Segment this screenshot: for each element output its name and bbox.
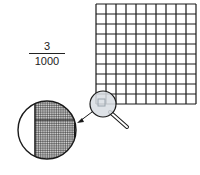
arrow-icon — [77, 112, 92, 123]
diagram — [0, 0, 200, 175]
magnifying-glass-icon — [90, 91, 127, 127]
hundred-grid — [96, 4, 196, 104]
